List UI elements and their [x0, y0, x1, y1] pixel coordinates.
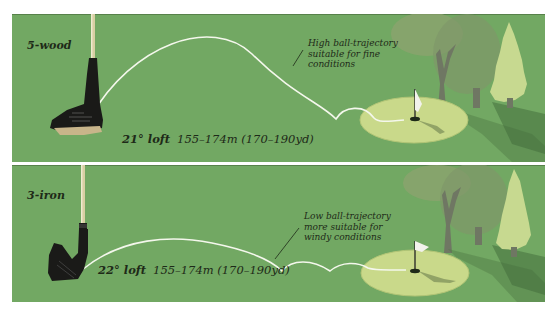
club-name-label: 5-wood — [27, 39, 72, 52]
panel-3-iron: 3-iron 22° loft155–174m (170–190yd) Low … — [12, 165, 545, 302]
loft-value: 22° loft — [98, 263, 146, 277]
trajectory-annotation: High ball-trajectory suitable for fine c… — [308, 38, 398, 70]
distance-value: 155–174m (170–190yd) — [177, 132, 314, 146]
annotation-line: conditions — [308, 59, 398, 70]
club-spec: 22° loft155–174m (170–190yd) — [98, 263, 290, 277]
annotation-line: High ball-trajectory — [308, 38, 398, 49]
annotation-leader-line — [293, 50, 303, 66]
distance-value: 155–174m (170–190yd) — [153, 263, 290, 277]
iron-club-icon — [48, 165, 88, 281]
fairway-wood-icon — [50, 14, 103, 135]
club-spec: 21° loft155–174m (170–190yd) — [122, 132, 314, 146]
club-name-label: 3-iron — [27, 189, 65, 202]
loft-value: 21° loft — [122, 132, 170, 146]
panel-5-wood: 5-wood 21° loft155–174m (170–190yd) High… — [12, 14, 545, 162]
scene-illustration — [12, 165, 545, 302]
annotation-line: suitable for fine — [308, 49, 398, 60]
annotation-line: Low ball-trajectory — [304, 211, 391, 222]
annotation-line: windy conditions — [304, 232, 391, 243]
annotation-leader-line — [275, 228, 299, 259]
annotation-line: more suitable for — [304, 222, 391, 233]
trajectory-annotation: Low ball-trajectory more suitable for wi… — [304, 211, 391, 243]
